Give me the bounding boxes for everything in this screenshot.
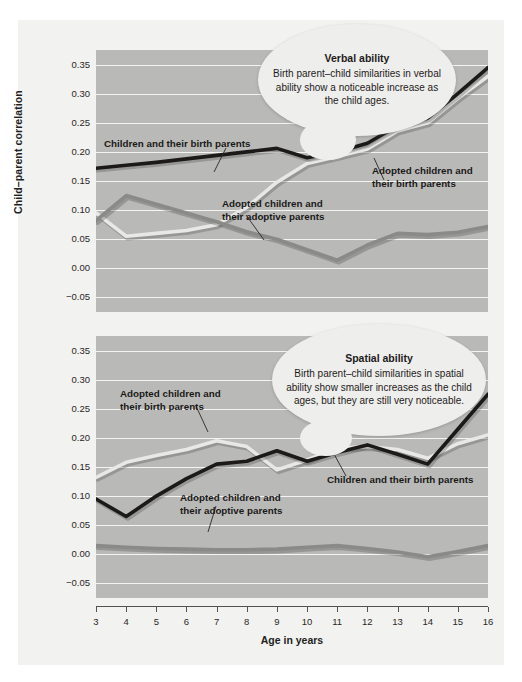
callout-verbal-ability: Verbal ability Birth parent–child simila… — [258, 24, 456, 136]
label-spatial-children-birth: Children and their birth parents — [327, 474, 473, 487]
label-verbal-adopted-adoptive: Adopted children and their adoptive pare… — [222, 198, 324, 223]
label-text-line2: their adoptive parents — [180, 505, 282, 518]
x-tick — [96, 607, 97, 612]
x-tick — [217, 607, 218, 612]
x-tick — [156, 607, 157, 612]
label-text-line2: their birth parents — [372, 178, 473, 191]
x-tick — [126, 607, 127, 612]
x-tick — [307, 607, 308, 612]
label-text: Children and their birth parents — [327, 474, 473, 485]
label-verbal-children-birth: Children and their birth parents — [104, 138, 250, 151]
label-text: Children and their birth parents — [104, 138, 250, 149]
x-axis-line — [96, 606, 488, 607]
y-tick-label: 0.25 — [46, 117, 90, 128]
x-tick-label: 5 — [146, 616, 166, 627]
x-tick — [367, 607, 368, 612]
x-tick-label: 8 — [237, 616, 257, 627]
label-text-line1: Adopted children and — [372, 165, 473, 178]
x-tick-label: 7 — [207, 616, 227, 627]
label-text-line2: their birth parents — [120, 401, 221, 414]
callout-spatial-tail — [300, 420, 352, 456]
x-tick — [428, 607, 429, 612]
y-tick-label: 0.10 — [46, 490, 90, 501]
x-tick-label: 4 — [116, 616, 136, 627]
y-tick-label: 0.05 — [46, 233, 90, 244]
y-tick-label: 0.15 — [46, 175, 90, 186]
x-tick — [398, 607, 399, 612]
y-tick-label: −0.05 — [46, 577, 90, 588]
y-tick-label: 0.15 — [46, 461, 90, 472]
x-tick-label: 3 — [86, 616, 106, 627]
label-text-line2: their adoptive parents — [222, 211, 324, 224]
label-spatial-adopted-adoptive: Adopted children and their adoptive pare… — [180, 492, 282, 517]
x-tick — [337, 607, 338, 612]
y-tick-label: 0.10 — [46, 204, 90, 215]
y-tick-label: 0.00 — [46, 548, 90, 559]
y-tick-label: 0.30 — [46, 374, 90, 385]
x-tick-label: 15 — [448, 616, 468, 627]
x-tick — [488, 607, 489, 612]
x-tick — [186, 607, 187, 612]
x-tick-label: 13 — [388, 616, 408, 627]
x-tick-label: 16 — [478, 616, 498, 627]
x-tick-label: 14 — [418, 616, 438, 627]
y-axis-label: Child–parent correlation — [12, 72, 30, 232]
x-axis-title: Age in years — [96, 634, 488, 646]
callout-spatial-body: Birth parent–child similarities in spati… — [272, 367, 486, 408]
label-verbal-adopted-birth: Adopted children and their birth parents — [372, 165, 473, 190]
x-tick — [277, 607, 278, 612]
y-tick-label: 0.30 — [46, 88, 90, 99]
callout-spatial-title: Spatial ability — [345, 352, 413, 364]
label-text-line1: Adopted children and — [222, 198, 324, 211]
label-text-line1: Adopted children and — [180, 492, 282, 505]
y-tick-label: 0.20 — [46, 146, 90, 157]
label-text-line1: Adopted children and — [120, 388, 221, 401]
y-tick-label: 0.05 — [46, 519, 90, 530]
callout-spatial-ability: Spatial ability Birth parent–child simil… — [272, 324, 486, 436]
x-tick — [458, 607, 459, 612]
annotation-leader-line — [214, 148, 226, 172]
x-tick — [247, 607, 248, 612]
x-tick-label: 6 — [176, 616, 196, 627]
y-tick-label: 0.00 — [46, 262, 90, 273]
x-tick-label: 10 — [297, 616, 317, 627]
y-tick-label: 0.35 — [46, 345, 90, 356]
callout-verbal-tail — [300, 120, 356, 160]
y-tick-label: 0.25 — [46, 403, 90, 414]
annotation-leader-line — [334, 454, 346, 476]
y-tick-label: 0.35 — [46, 59, 90, 70]
y-tick-label: −0.05 — [46, 291, 90, 302]
callout-verbal-title: Verbal ability — [325, 52, 390, 64]
x-tick-label: 11 — [327, 616, 347, 627]
callout-verbal-body: Birth parent–child similarities in verba… — [258, 67, 456, 108]
y-tick-label: 0.20 — [46, 432, 90, 443]
x-tick-label: 9 — [267, 616, 287, 627]
figure-root: Child–parent correlation −0.050.000.050.… — [0, 0, 522, 682]
label-spatial-adopted-birth: Adopted children and their birth parents — [120, 388, 221, 413]
x-tick-label: 12 — [357, 616, 377, 627]
